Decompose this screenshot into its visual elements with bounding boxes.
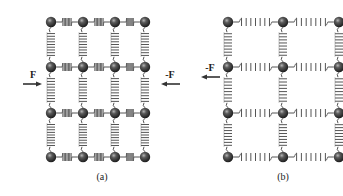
spring-horizontal [288, 63, 334, 71]
spring-vertical [335, 27, 343, 62]
force-label: -F [205, 62, 214, 73]
spring-horizontal [88, 63, 110, 71]
atom-ball [223, 152, 233, 162]
spring-vertical [111, 118, 119, 152]
spring-horizontal [88, 18, 110, 26]
spring-vertical [111, 72, 119, 108]
atom-ball [140, 17, 150, 27]
atom-ball [140, 108, 150, 118]
atom-ball [78, 152, 88, 162]
spring-vertical [279, 118, 287, 152]
spring-horizontal [120, 153, 140, 161]
spring-vertical [141, 118, 149, 152]
spring-vertical [47, 72, 55, 108]
spring-horizontal [88, 153, 110, 161]
force-arrow-left-icon: -F [201, 62, 220, 80]
atom-ball [278, 62, 288, 72]
atom-ball [223, 62, 233, 72]
spring-horizontal [233, 18, 278, 26]
spring-horizontal [120, 63, 140, 71]
atom-ball [78, 108, 88, 118]
atom-ball [46, 108, 56, 118]
spring-horizontal [120, 109, 140, 117]
atom-ball [334, 62, 343, 72]
atom-ball [110, 152, 120, 162]
atom-ball [278, 108, 288, 118]
panel-caption-a: (a) [96, 171, 107, 183]
spring-vertical [279, 72, 287, 108]
atom-ball [110, 17, 120, 27]
panel-b-stretched-lattice: -F(b) [201, 17, 343, 183]
atom-ball [46, 17, 56, 27]
spring-vertical [79, 72, 87, 108]
spring-vertical [141, 27, 149, 62]
spring-vertical [224, 72, 232, 108]
spring-horizontal [56, 153, 78, 161]
spring-horizontal [233, 153, 278, 161]
spring-horizontal [120, 18, 140, 26]
spring-vertical [335, 118, 343, 152]
spring-vertical [279, 27, 287, 62]
atom-ball [46, 152, 56, 162]
spring-vertical [224, 27, 232, 62]
spring-vertical [224, 118, 232, 152]
spring-vertical [111, 27, 119, 62]
atom-ball [110, 62, 120, 72]
force-label: F [30, 69, 36, 80]
atom-ball [140, 62, 150, 72]
atom-ball [140, 152, 150, 162]
atom-ball [110, 108, 120, 118]
atom-ball [223, 108, 233, 118]
spring-horizontal [56, 18, 78, 26]
spring-horizontal [288, 18, 334, 26]
spring-vertical [141, 72, 149, 108]
atom-ball [46, 62, 56, 72]
force-arrow-right-icon: F [23, 69, 42, 87]
spring-vertical [79, 118, 87, 152]
spring-horizontal [233, 109, 278, 117]
force-label: -F [165, 69, 174, 80]
spring-vertical [47, 27, 55, 62]
spring-horizontal [56, 109, 78, 117]
spring-vertical [47, 118, 55, 152]
force-arrow-left-icon: -F [161, 69, 180, 87]
atom-ball [334, 17, 343, 27]
atom-ball [278, 17, 288, 27]
spring-horizontal [56, 63, 78, 71]
atom-ball [223, 17, 233, 27]
spring-vertical [335, 72, 343, 108]
spring-horizontal [88, 109, 110, 117]
spring-horizontal [288, 153, 334, 161]
panel-a-compressed-lattice: F-F(a) [23, 17, 180, 183]
spring-horizontal [233, 63, 278, 71]
spring-vertical [79, 27, 87, 62]
atom-ball [78, 62, 88, 72]
spring-horizontal [288, 109, 334, 117]
atom-ball [334, 152, 343, 162]
atom-ball [278, 152, 288, 162]
panel-caption-b: (b) [277, 171, 289, 183]
atom-ball [78, 17, 88, 27]
atom-ball [334, 108, 343, 118]
spring-lattice-diagram: F-F(a) -F(b) [0, 0, 343, 196]
